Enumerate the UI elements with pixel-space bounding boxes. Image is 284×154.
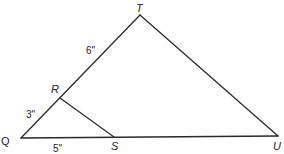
segment-QT	[21, 15, 140, 138]
measure-label-RT: 6"	[86, 45, 96, 56]
triangle-diagram: T R Q S U 6" 3" 5"	[0, 0, 284, 154]
segment-RS	[60, 98, 114, 137]
measure-label-QS: 5"	[53, 143, 63, 154]
vertex-label-T: T	[136, 2, 144, 14]
segment-TU	[140, 15, 278, 136]
vertex-label-S: S	[111, 140, 119, 152]
vertex-label-Q: Q	[1, 135, 10, 147]
vertex-label-R: R	[51, 83, 59, 95]
vertex-label-U: U	[273, 140, 281, 152]
segment-QU	[21, 136, 278, 138]
measure-label-QR: 3"	[26, 109, 36, 120]
